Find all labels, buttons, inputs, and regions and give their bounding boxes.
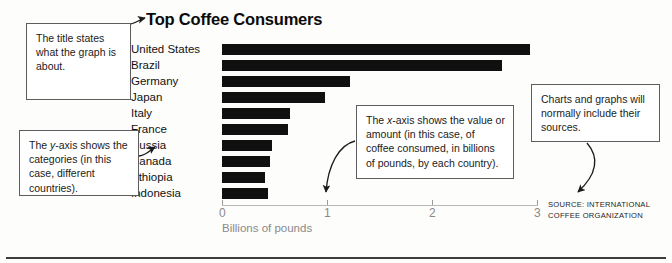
callout-source-note-text: Charts and graphs will normally include … (541, 93, 645, 133)
source-credit-line-1: SOURCE: INTERNATIONAL (548, 200, 668, 211)
arrow-to-xaxis (326, 141, 355, 192)
callout-yaxis-note-prefix: The (29, 139, 50, 151)
bar (222, 172, 265, 183)
figure-root: Top Coffee Consumers United States Brazi… (0, 0, 672, 263)
callout-yaxis-note: The y-axis shows the categories (in this… (19, 130, 139, 196)
arrow-to-title (131, 18, 145, 24)
bar (222, 76, 350, 87)
callout-title-note-text: The title states what the graph is about… (36, 32, 116, 72)
bar (222, 60, 502, 71)
bar (222, 92, 325, 103)
x-axis-line (222, 205, 538, 206)
category-label: Germany (131, 75, 219, 87)
source-credit-line-2: COFFEE ORGANIZATION (548, 211, 668, 222)
category-label: Ethiopia (131, 171, 219, 183)
x-axis-tick-label: 0 (219, 206, 226, 220)
category-label: Italy (131, 107, 219, 119)
bar (222, 108, 290, 119)
x-axis-tick (537, 200, 538, 205)
x-axis-title: Billions of pounds (222, 222, 312, 234)
bar (222, 124, 288, 135)
category-label: France (131, 123, 219, 135)
category-label: Russia (131, 139, 219, 151)
bar (222, 188, 268, 199)
x-axis-tick (327, 200, 328, 205)
x-axis-tick (432, 200, 433, 205)
category-label: United States (131, 43, 219, 55)
bar (222, 44, 530, 55)
page-title: Top Coffee Consumers (146, 10, 322, 29)
bar (222, 156, 270, 167)
category-label: Canada (131, 155, 219, 167)
callout-xaxis-note: The x-axis shows the value or amount (in… (356, 105, 514, 179)
x-axis-tick-label: 3 (534, 206, 541, 220)
category-label: Indonesia (131, 187, 219, 199)
bar (222, 140, 272, 151)
x-axis-tick-label: 2 (429, 206, 436, 220)
category-label: Japan (131, 91, 219, 103)
source-credit: SOURCE: INTERNATIONAL COFFEE ORGANIZATIO… (548, 200, 668, 221)
callout-xaxis-note-prefix: The (366, 114, 387, 126)
arrow-to-source (578, 143, 595, 192)
callout-source-note: Charts and graphs will normally include … (531, 84, 660, 142)
arrow-to-categories (139, 147, 155, 156)
callout-title-note: The title states what the graph is about… (26, 23, 131, 100)
category-label: Brazil (131, 59, 219, 71)
x-axis-tick-label: 1 (324, 206, 331, 220)
x-axis-tick (222, 200, 223, 205)
